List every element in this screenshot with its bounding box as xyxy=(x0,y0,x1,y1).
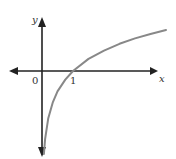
tick-label-one: 1 xyxy=(70,75,76,86)
x-axis-left-arrow-icon xyxy=(9,67,18,75)
x-axis-label: x xyxy=(159,73,165,84)
log-curve xyxy=(44,30,166,154)
origin-label: 0 xyxy=(32,75,38,86)
graph-canvas: y x 0 1 xyxy=(0,0,176,159)
y-axis-label: y xyxy=(31,14,38,25)
y-axis-top-arrow-icon xyxy=(38,17,46,27)
